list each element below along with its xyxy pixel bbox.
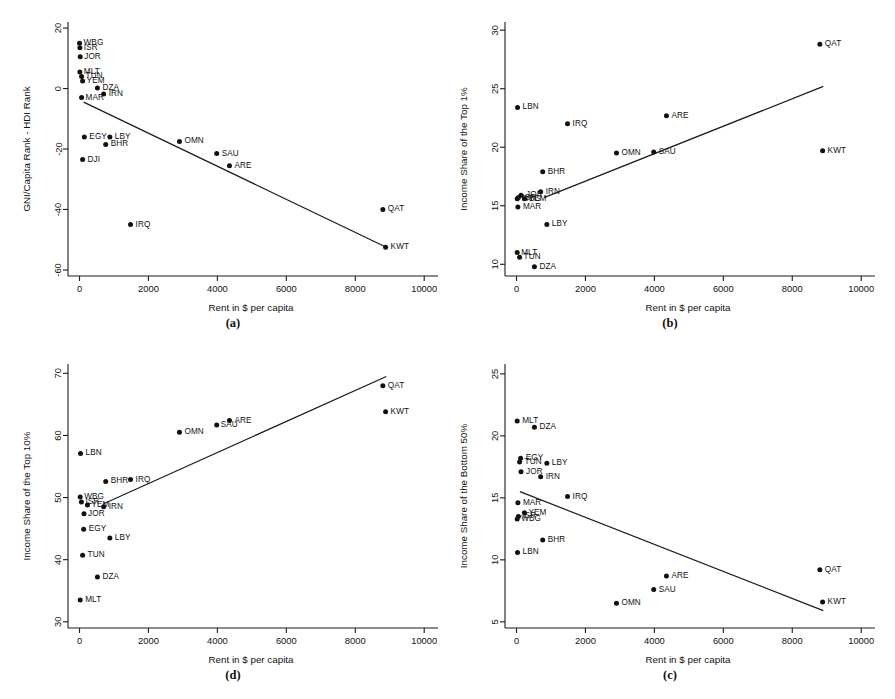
data-point: OMN — [614, 598, 641, 607]
plot-area-c: 5101520250200040006000800010000Income Sh… — [455, 350, 885, 690]
data-point-label: OMN — [184, 136, 203, 145]
y-tick-label: 50 — [53, 492, 64, 502]
data-point-marker — [614, 601, 619, 606]
data-point: KWT — [820, 597, 846, 606]
data-point-label: DJI — [88, 155, 101, 164]
x-tick-label: 4000 — [644, 635, 665, 646]
scatter-panel-a: 200-20-40-600200040006000800010000GNI/Ca… — [18, 8, 448, 338]
data-point-marker — [177, 139, 182, 144]
data-point-label: ARE — [671, 571, 689, 580]
data-point-marker — [80, 78, 85, 83]
data-point: BHR — [103, 139, 128, 148]
data-point: MAR — [79, 93, 104, 102]
x-tick-label: 8000 — [345, 283, 366, 294]
data-point: OMN — [177, 136, 204, 145]
x-tick-label: 0 — [514, 283, 519, 294]
data-point-marker — [515, 419, 520, 424]
data-point-marker — [614, 151, 619, 156]
x-tick-label: 2000 — [138, 635, 159, 646]
data-point-label: ISR — [84, 43, 98, 52]
data-point-marker — [78, 54, 83, 59]
data-point: OMN — [177, 427, 204, 436]
data-point: ARE — [664, 111, 689, 120]
x-tick-label: 2000 — [138, 283, 159, 294]
regression-fit-line — [544, 86, 823, 197]
data-point-label: MAR — [86, 93, 105, 102]
data-point-marker — [515, 516, 520, 521]
y-tick-label: 15 — [490, 201, 501, 211]
data-point-marker — [565, 121, 570, 126]
data-point-label: JOR — [84, 52, 101, 61]
data-point-label: DZA — [102, 572, 119, 581]
data-point-label: SAU — [221, 420, 238, 429]
data-point-label: IRN — [109, 89, 123, 98]
data-point: LBN — [78, 448, 102, 457]
data-point-marker — [517, 255, 522, 260]
y-tick-label: 30 — [490, 25, 501, 35]
data-point: IRQ — [565, 119, 587, 128]
data-point: ARE — [227, 161, 252, 170]
y-tick-label: 5 — [490, 619, 501, 624]
y-axis-title: Income Share of the Bottom 50% — [458, 424, 469, 569]
data-point: LBN — [515, 547, 539, 556]
y-axis-title: Income Share of the Top 1% — [458, 87, 469, 211]
data-point-label: TUN — [524, 252, 541, 261]
data-point-marker — [79, 499, 84, 504]
data-point-marker — [80, 157, 85, 162]
x-tick-label: 2000 — [575, 635, 596, 646]
plot-area-b: 10152025300200040006000800010000Income S… — [455, 8, 885, 338]
axes-a — [68, 22, 438, 276]
data-point: DZA — [95, 572, 120, 581]
data-point: LBY — [544, 219, 568, 228]
data-point: BHR — [540, 167, 565, 176]
data-point-marker — [103, 142, 108, 147]
data-point-marker — [380, 383, 385, 388]
x-tick-label: 10000 — [848, 635, 874, 646]
data-point-label: IRQ — [573, 119, 588, 128]
data-point-label: KWT — [391, 407, 410, 416]
data-point-label: YEM — [91, 500, 109, 509]
data-point-marker — [77, 41, 82, 46]
data-point-label: IRN — [546, 187, 560, 196]
data-point-label: LBY — [115, 533, 131, 542]
data-point-label: DZA — [539, 422, 556, 431]
data-point-marker — [80, 553, 85, 558]
data-point: IRQ — [565, 492, 587, 501]
data-point-label: TUN — [525, 457, 542, 466]
data-point-marker — [227, 163, 232, 168]
data-point-marker — [515, 500, 520, 505]
x-tick-label: 6000 — [713, 635, 734, 646]
y-tick-label: 30 — [53, 617, 64, 627]
axes-c — [505, 364, 875, 628]
data-point-marker — [817, 567, 822, 572]
data-point: TUN — [80, 550, 105, 559]
data-point-label: LBN — [523, 547, 539, 556]
data-point-marker — [79, 95, 84, 100]
regression-fit-line — [104, 376, 387, 503]
y-tick-label: 40 — [53, 554, 64, 564]
data-point: DJI — [80, 155, 100, 164]
y-tick-label: -20 — [53, 142, 64, 156]
data-point-marker — [538, 474, 543, 479]
data-point-label: TUN — [88, 550, 105, 559]
data-point: MLT — [515, 416, 539, 425]
data-point: MAR — [515, 202, 541, 211]
y-tick-label: 70 — [53, 368, 64, 378]
data-point: KWT — [383, 242, 409, 251]
y-tick-label: 10 — [490, 555, 501, 565]
data-point-marker — [95, 575, 100, 580]
data-point: SAU — [651, 147, 676, 156]
data-point: ARE — [664, 571, 689, 580]
x-tick-label: 6000 — [276, 283, 297, 294]
data-point-marker — [128, 477, 133, 482]
data-point-label: BHR — [548, 167, 566, 176]
data-point-label: QAT — [825, 39, 842, 48]
data-point-marker — [82, 134, 87, 139]
x-tick-label: 4000 — [644, 283, 665, 294]
data-point-label: BHR — [111, 139, 129, 148]
scatter-panel-c: 5101520250200040006000800010000Income Sh… — [455, 350, 885, 690]
x-tick-label: 2000 — [575, 283, 596, 294]
data-point-marker — [383, 409, 388, 414]
data-point-marker — [128, 222, 133, 227]
y-tick-label: 15 — [490, 493, 501, 503]
